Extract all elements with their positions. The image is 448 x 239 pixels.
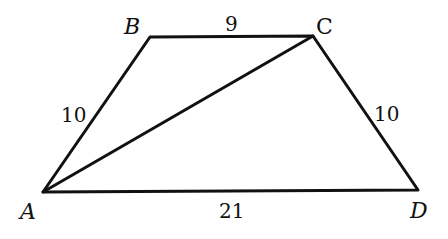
side-length-ab: 10 bbox=[61, 103, 86, 127]
side-length-cd: 10 bbox=[374, 102, 399, 126]
trapezoid-diagram: A B C D 10 9 10 21 bbox=[0, 0, 448, 239]
side-length-bc: 9 bbox=[225, 12, 238, 36]
vertex-label-d: D bbox=[409, 198, 428, 223]
trapezoid-abcd bbox=[43, 36, 418, 192]
side-length-ad: 21 bbox=[219, 199, 244, 223]
vertex-label-a: A bbox=[18, 199, 36, 224]
vertex-label-c: C bbox=[316, 14, 333, 39]
vertex-label-b: B bbox=[123, 14, 140, 39]
